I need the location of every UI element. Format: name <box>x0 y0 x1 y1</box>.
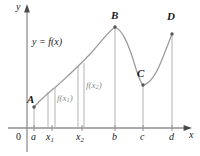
curve-equation-label: y = f(x) <box>32 37 62 47</box>
point-label-d: D <box>167 11 175 22</box>
value-label-fx2-close: ) <box>99 80 102 90</box>
function-graph-figure: y x 0 a x1 x2 b c d y = f(x) A B C D f(x… <box>0 0 200 156</box>
point-marker-b <box>113 25 116 28</box>
point-marker-c <box>141 83 144 86</box>
point-marker-d <box>170 32 173 35</box>
value-label-fx2-fn: f(x <box>86 80 96 90</box>
origin-label: 0 <box>16 132 21 142</box>
x-tick-label-x1: x1 <box>46 132 54 144</box>
y-axis-label: y <box>16 2 20 12</box>
value-label-fx2: f(x2) <box>86 81 102 91</box>
point-marker-a <box>32 105 35 108</box>
y-axis <box>24 4 30 152</box>
x-tick-label-x2-subscript: 2 <box>80 136 84 144</box>
x-axis-label: x <box>189 130 193 140</box>
y-axis-arrowhead <box>24 4 30 12</box>
x-tick-label-x2: x2 <box>76 132 84 144</box>
value-label-fx1-fn: f(x <box>57 93 67 103</box>
x-tick-label-x1-subscript: 1 <box>50 136 54 144</box>
x-tick-label-c: c <box>140 132 144 142</box>
point-label-c: C <box>137 68 144 79</box>
point-label-b: B <box>111 10 118 21</box>
x-tick-label-d: d <box>169 132 174 142</box>
x-tick-label-b: b <box>112 132 117 142</box>
x-tick-label-a: a <box>31 132 36 142</box>
value-label-fx1-close: ) <box>70 93 73 103</box>
value-label-fx1: f(x1) <box>57 94 73 104</box>
point-label-a: A <box>27 94 34 105</box>
